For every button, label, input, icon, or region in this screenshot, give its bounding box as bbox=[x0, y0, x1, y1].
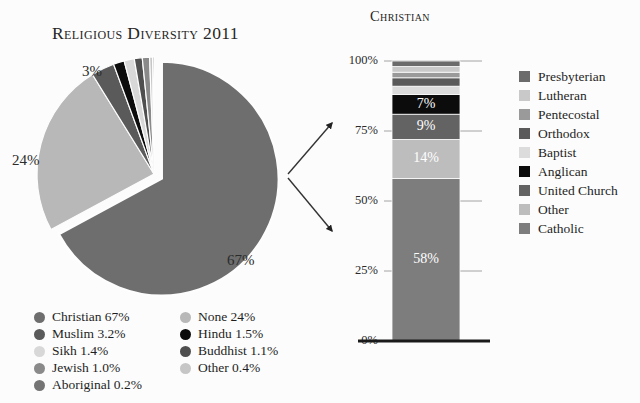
legend-item[interactable]: Pentecostal bbox=[519, 106, 618, 123]
bar-chart-title: Christian bbox=[370, 8, 430, 25]
bar-tick-label-100: 100% bbox=[349, 53, 378, 67]
pie-label-none: 24% bbox=[12, 152, 40, 169]
bar-legend-swatch-icon bbox=[519, 147, 530, 158]
pie-legend-swatch-icon bbox=[180, 346, 191, 357]
legend-item[interactable]: Presbyterian bbox=[519, 68, 618, 85]
legend-item-label: Aboriginal 0.2% bbox=[52, 378, 142, 392]
bar-legend-swatch-icon bbox=[519, 185, 530, 196]
bar-segment-label-united-church: 9% bbox=[417, 118, 436, 133]
legend-item-label: Other 0.4% bbox=[198, 361, 260, 375]
legend-item-label: Anglican bbox=[538, 165, 588, 179]
pie-legend-swatch-icon bbox=[34, 329, 45, 340]
legend-item[interactable]: Catholic bbox=[519, 220, 618, 237]
legend-item[interactable]: Jewish 1.0% bbox=[34, 360, 142, 376]
bar-legend-swatch-icon bbox=[519, 204, 530, 215]
legend-item-label: United Church bbox=[538, 184, 618, 198]
legend-item[interactable]: Hindu 1.5% bbox=[180, 326, 278, 342]
legend-item-label: Hindu 1.5% bbox=[198, 327, 263, 341]
legend-item[interactable]: None 24% bbox=[180, 309, 278, 325]
legend-item[interactable]: Other bbox=[519, 201, 618, 218]
legend-item[interactable]: Muslim 3.2% bbox=[34, 326, 142, 342]
legend-item-label: Other bbox=[538, 203, 569, 217]
legend-item-label: Sikh 1.4% bbox=[52, 344, 108, 358]
pie-legend-swatch-icon bbox=[180, 363, 191, 374]
pie-legend-swatch-icon bbox=[34, 380, 45, 391]
pie-legend-swatch-icon bbox=[34, 312, 45, 323]
legend-item[interactable]: Orthodox bbox=[519, 125, 618, 142]
bar-segment-label-catholic: 58% bbox=[413, 251, 439, 266]
legend-item-label: Lutheran bbox=[538, 89, 587, 103]
christian-stacked-bar: 100%75%50%25%0% 58%14%9%7% bbox=[330, 30, 510, 370]
legend-item-label: Muslim 3.2% bbox=[52, 327, 126, 341]
bar-legend-swatch-icon bbox=[519, 109, 530, 120]
legend-item[interactable]: Baptist bbox=[519, 144, 618, 161]
pie-legend-column-2: None 24%Hindu 1.5%Buddhist 1.1%Other 0.4… bbox=[180, 309, 278, 393]
bar-tick-label-25: 25% bbox=[355, 263, 378, 277]
bar-segment-presbyterian bbox=[392, 61, 460, 67]
bar-legend-swatch-icon bbox=[519, 90, 530, 101]
pie-legend-swatch-icon bbox=[180, 329, 191, 340]
legend-item[interactable]: Other 0.4% bbox=[180, 360, 278, 376]
pie-chart-panel: Religious Diversity 2011 67% 24% 3% bbox=[0, 0, 330, 300]
bar-segment-group: 58%14%9%7% bbox=[392, 61, 460, 341]
legend-item-label: Catholic bbox=[538, 222, 584, 236]
bar-segment-pentecostal bbox=[392, 72, 460, 78]
bar-legend: PresbyterianLutheranPentecostalOrthodoxB… bbox=[519, 68, 618, 237]
bar-tick-label-50: 50% bbox=[355, 193, 378, 207]
pie-legend: Christian 67%Muslim 3.2%Sikh 1.4%Jewish … bbox=[34, 309, 278, 393]
legend-item-label: Buddhist 1.1% bbox=[198, 344, 278, 358]
bar-legend-swatch-icon bbox=[519, 128, 530, 139]
pie-legend-swatch-icon bbox=[34, 363, 45, 374]
legend-item[interactable]: Anglican bbox=[519, 163, 618, 180]
bar-segment-orthodox bbox=[392, 78, 460, 86]
legend-item-label: Orthodox bbox=[538, 127, 590, 141]
christian-denominations-panel: 100%75%50%25%0% 58%14%9%7% bbox=[330, 30, 510, 370]
legend-item[interactable]: Buddhist 1.1% bbox=[180, 343, 278, 359]
bar-legend-swatch-icon bbox=[519, 71, 530, 82]
bar-legend-swatch-icon bbox=[519, 166, 530, 177]
bar-segment-label-other: 14% bbox=[413, 150, 439, 165]
arrow-lower bbox=[288, 178, 332, 231]
pie-legend-swatch-icon bbox=[34, 346, 45, 357]
bar-segment-baptist bbox=[392, 86, 460, 94]
legend-item[interactable]: Christian 67% bbox=[34, 309, 142, 325]
legend-item-label: Presbyterian bbox=[538, 70, 605, 84]
bar-legend-swatch-icon bbox=[519, 223, 530, 234]
legend-item-label: Pentecostal bbox=[538, 108, 599, 122]
legend-item[interactable]: Lutheran bbox=[519, 87, 618, 104]
legend-item-label: Jewish 1.0% bbox=[52, 361, 120, 375]
bar-segment-label-anglican: 7% bbox=[417, 96, 436, 111]
legend-item[interactable]: Sikh 1.4% bbox=[34, 343, 142, 359]
legend-item-label: Baptist bbox=[538, 146, 576, 160]
legend-item-label: Christian 67% bbox=[52, 310, 130, 324]
bar-segment-lutheran bbox=[392, 67, 460, 73]
pie-label-christian: 67% bbox=[227, 252, 255, 269]
bar-tick-label-75: 75% bbox=[355, 123, 378, 137]
arrow-upper bbox=[288, 123, 332, 174]
pie-legend-column-1: Christian 67%Muslim 3.2%Sikh 1.4%Jewish … bbox=[34, 309, 142, 393]
pie-chart-title: Religious Diversity 2011 bbox=[52, 23, 239, 44]
legend-item[interactable]: United Church bbox=[519, 182, 618, 199]
pie-legend-swatch-icon bbox=[180, 312, 191, 323]
legend-item-label: None 24% bbox=[198, 310, 255, 324]
pie-label-muslim: 3% bbox=[82, 63, 102, 80]
legend-item[interactable]: Aboriginal 0.2% bbox=[34, 377, 142, 393]
